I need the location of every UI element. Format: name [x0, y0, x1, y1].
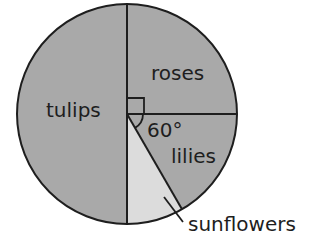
label-sunflowers: sunflowers: [188, 214, 296, 234]
label-angle-60: 60°: [147, 120, 182, 140]
label-lilies: lilies: [171, 146, 216, 166]
label-tulips: tulips: [46, 100, 101, 120]
pie-chart-diagram: roses tulips 60° lilies sunflowers: [0, 0, 310, 240]
label-roses: roses: [151, 63, 204, 83]
